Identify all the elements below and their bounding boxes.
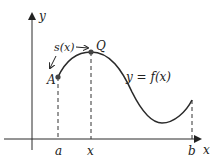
curve-f xyxy=(58,52,192,123)
tick-label-b: b xyxy=(188,144,196,158)
arc-arrow-left xyxy=(50,56,56,68)
point-q-label: Q xyxy=(96,39,106,53)
point-q xyxy=(88,49,93,54)
arc-arrow-right xyxy=(76,47,88,48)
point-a xyxy=(55,74,60,79)
curve-label: y = f(x) xyxy=(125,70,171,84)
tick-label-x: x xyxy=(87,144,94,158)
tick-label-a: a xyxy=(55,144,62,158)
arc-length-label: s(x) xyxy=(54,41,74,54)
arc-length-diagram: y x A Q s(x) y = f(x) a x b xyxy=(0,0,211,160)
x-axis-label: x xyxy=(203,143,210,157)
point-a-label: A xyxy=(46,73,56,87)
y-axis-label: y xyxy=(38,9,46,23)
